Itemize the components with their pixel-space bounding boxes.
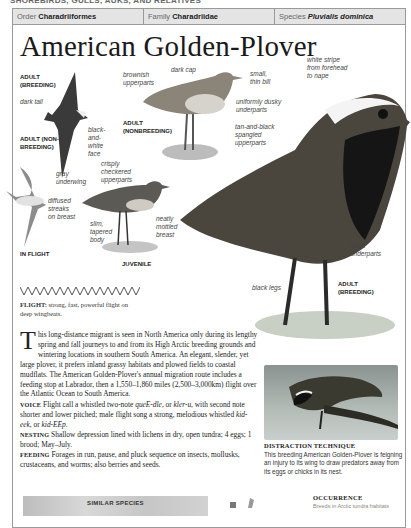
label-juvenile: JUVENILE bbox=[122, 261, 151, 269]
photo-caption: DISTRACTION TECHNIQUE This breeding Amer… bbox=[264, 442, 406, 476]
voice-heading: VOICE bbox=[20, 401, 41, 408]
order-value: Charadriiformes bbox=[38, 12, 96, 21]
label-line: ADULT (NON- bbox=[20, 136, 59, 144]
label-line: upperparts bbox=[123, 79, 154, 87]
label-line: to nape bbox=[307, 72, 347, 80]
label-line: from forehead bbox=[307, 64, 347, 72]
taxonomy-family: Family Charadriidae bbox=[144, 9, 275, 24]
voice-call: queE-dle bbox=[135, 400, 162, 409]
species-label: Species bbox=[279, 12, 306, 21]
label-line: upperparts bbox=[235, 139, 274, 147]
similar-species-heading: SIMILAR SPECIES bbox=[23, 496, 208, 506]
label-line: underparts bbox=[350, 250, 381, 258]
distraction-photo bbox=[264, 365, 398, 440]
voice-paragraph: VOICE Flight call a whistled two-note qu… bbox=[20, 400, 258, 430]
nesting-text: Shallow depression lined with lichens in… bbox=[20, 430, 251, 449]
label-line: (BREEDING) bbox=[20, 82, 56, 90]
flight-description: FLIGHT: strong, fast, powerful flight on… bbox=[20, 300, 140, 318]
label-line: spangled bbox=[235, 131, 274, 139]
feeding-paragraph: FEEDING Forages in run, pause, and pluck… bbox=[20, 450, 258, 470]
label-line: brownish bbox=[123, 71, 154, 79]
voice-text: Flight call a whistled two-note bbox=[41, 400, 135, 409]
label-adult-breeding-flight: ADULT (BREEDING) bbox=[20, 74, 56, 89]
label-line: BREEDING) bbox=[20, 144, 59, 152]
adult-breeding-illustration bbox=[175, 80, 410, 345]
label-white-stripe: white stripe from forehead to nape bbox=[307, 56, 347, 80]
label-adult-breeding: ADULT (BREEDING) bbox=[338, 281, 374, 296]
photo-caption-text: This breeding American Golden-Plover is … bbox=[264, 451, 406, 477]
nesting-heading: NESTING bbox=[20, 431, 49, 438]
species-value: Pluvialis dominica bbox=[308, 12, 373, 21]
label-brownish-upperparts: brownish upperparts bbox=[123, 71, 154, 87]
family-label: Family bbox=[148, 12, 170, 21]
label-line: white bbox=[88, 142, 105, 150]
label-line: black- bbox=[88, 126, 105, 134]
label-line: body bbox=[90, 236, 112, 244]
label-line: thin bill bbox=[250, 78, 270, 86]
habitat-icon bbox=[230, 502, 236, 508]
label-line: diffused bbox=[48, 197, 75, 205]
intro-paragraph: This long-distance migrant is seen in No… bbox=[20, 330, 258, 399]
occurrence-text: Breeds in Arctic tundra habitats bbox=[313, 503, 389, 509]
label-dark-cap: dark cap bbox=[171, 66, 196, 74]
intro-text: his long-distance migrant is seen in Nor… bbox=[20, 330, 257, 398]
running-head: SHOREBIRDS, GULLS, AUKS, AND RELATIVES bbox=[10, 0, 201, 5]
label-line: and- bbox=[88, 134, 105, 142]
similar-species-panel: SIMILAR SPECIES bbox=[23, 496, 208, 516]
label-line: on breast bbox=[48, 213, 75, 221]
order-label: Order bbox=[17, 12, 36, 21]
voice-text: , or bbox=[30, 420, 42, 429]
label-line: breast bbox=[156, 231, 177, 239]
label-neatly-mottled: neatly mottled breast bbox=[156, 215, 177, 239]
label-crisply-checkered: crisply checkered upperparts bbox=[101, 160, 132, 184]
label-line: streaks bbox=[48, 205, 75, 213]
label-line: crisply bbox=[101, 160, 132, 168]
label-line: white stripe bbox=[307, 56, 347, 64]
drop-cap: T bbox=[20, 331, 36, 351]
label-line: underparts bbox=[236, 106, 281, 114]
habitat-icon bbox=[248, 498, 254, 508]
voice-text: , or bbox=[162, 400, 174, 409]
flight-pattern-zigzag-icon bbox=[20, 285, 140, 297]
occurrence-heading: OCCURRENCE bbox=[313, 494, 363, 501]
label-line: upperparts bbox=[101, 176, 132, 184]
label-black-white-face: black- and- white face bbox=[88, 126, 105, 158]
label-black-underparts: black underparts bbox=[350, 242, 381, 258]
label-diffused-streaks: diffused streaks on breast bbox=[48, 197, 75, 221]
feeding-heading: FEEDING bbox=[20, 451, 50, 458]
label-line: (BREEDING) bbox=[338, 289, 374, 297]
label-line: underwing bbox=[56, 178, 86, 186]
label-line: face bbox=[88, 150, 105, 158]
label-line: (NONBREEDING) bbox=[123, 128, 172, 136]
family-value: Charadriidae bbox=[172, 12, 218, 21]
label-gray-underwing: gray underwing bbox=[56, 170, 86, 186]
label-line: ADULT bbox=[123, 120, 172, 128]
species-description: This long-distance migrant is seen in No… bbox=[20, 330, 258, 471]
label-line: mottled bbox=[156, 223, 177, 231]
label-adult-nonbreeding-flight: ADULT (NON- BREEDING) bbox=[20, 136, 59, 151]
label-line: ADULT bbox=[20, 74, 56, 82]
voice-call: kid-EEp bbox=[42, 420, 66, 429]
taxonomy-species: Species Pluvialis dominica bbox=[275, 9, 405, 24]
label-line: black bbox=[350, 242, 381, 250]
label-black-legs: black legs bbox=[252, 284, 281, 292]
label-line: small, bbox=[250, 70, 270, 78]
label-line: checkered bbox=[101, 168, 132, 176]
label-tan-black-spangled: tan-and-black spangled upperparts bbox=[235, 123, 274, 147]
label-line: tapered bbox=[90, 228, 112, 236]
taxonomy-bar: Order Charadriiformes Family Charadriida… bbox=[12, 8, 406, 25]
voice-call: kler-u bbox=[174, 400, 192, 409]
label-line: uniformly dusky bbox=[236, 98, 281, 106]
label-in-flight: IN FLIGHT bbox=[20, 251, 49, 259]
label-line: ADULT bbox=[338, 281, 374, 289]
photo-caption-heading: DISTRACTION TECHNIQUE bbox=[264, 442, 406, 451]
label-slim-tapered: slim, tapered body bbox=[90, 220, 112, 244]
label-line: slim, bbox=[90, 220, 112, 228]
label-adult-nonbreeding: ADULT (NONBREEDING) bbox=[123, 120, 172, 135]
voice-text: . bbox=[66, 420, 68, 429]
page-title: American Golden-Plover bbox=[20, 30, 317, 63]
label-small-thin-bill: small, thin bill bbox=[250, 70, 270, 86]
taxonomy-order: Order Charadriiformes bbox=[13, 9, 144, 24]
label-line: neatly bbox=[156, 215, 177, 223]
label-uniformly-dusky: uniformly dusky underparts bbox=[236, 98, 281, 114]
